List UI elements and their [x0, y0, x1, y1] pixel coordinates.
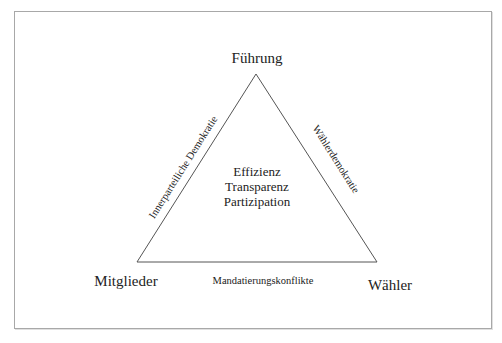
- edge-bottom-label: Mandatierungskonflikte: [213, 275, 314, 286]
- vertex-bottom-left-label: Mitglieder: [94, 273, 157, 289]
- vertex-bottom-right-label: Wähler: [368, 277, 412, 293]
- center-label-2: Transparenz: [225, 179, 289, 194]
- vertex-top-label: Führung: [232, 50, 283, 66]
- edge-left-label: Innerparteiliche Demokratie: [147, 114, 220, 220]
- triangle-diagram: Führung Mitglieder Wähler Mandatierungsk…: [0, 0, 502, 343]
- edge-right-label: Wählerdemokratie: [310, 123, 361, 195]
- center-label-3: Partizipation: [224, 194, 291, 209]
- center-label-1: Effizienz: [233, 164, 281, 179]
